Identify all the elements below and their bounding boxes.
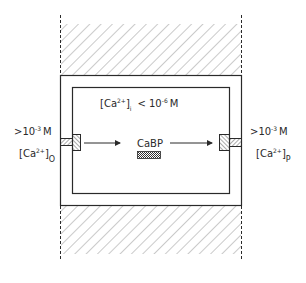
bottom-hatched-region bbox=[61, 206, 241, 254]
top-hatched-region bbox=[61, 24, 241, 75]
svg-text:>10-3M: >10-3M bbox=[250, 125, 288, 137]
cabp-box bbox=[138, 152, 161, 159]
cabp-carrier: CaBP bbox=[137, 138, 163, 159]
cabp-label: CaBP bbox=[137, 138, 163, 149]
svg-text:[Ca2+]P: [Ca2+]P bbox=[256, 147, 291, 164]
svg-text:[Ca2+]O: [Ca2+]O bbox=[19, 147, 55, 164]
calcium-transport-diagram: CaBP [Ca2+]i< 10-6M >10-3M [Ca2+]O >10-3… bbox=[0, 0, 306, 283]
svg-text:>10-3M: >10-3M bbox=[14, 125, 52, 137]
right-concentration-label: >10-3M [Ca2+]P bbox=[250, 125, 291, 164]
left-concentration-label: >10-3M [Ca2+]O bbox=[14, 125, 55, 164]
